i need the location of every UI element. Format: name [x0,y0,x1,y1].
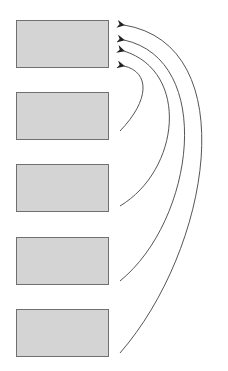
arrow-box5-to-box1 [120,25,202,353]
arrow-box3-to-box1 [120,51,169,206]
arrow-box4-to-box1 [120,40,185,281]
arrow-box2-to-box1 [120,66,143,131]
arrows-layer [0,0,228,371]
